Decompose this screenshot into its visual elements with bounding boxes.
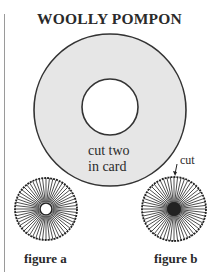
cut-label: cut bbox=[180, 153, 195, 168]
figure-b-pompon bbox=[142, 177, 206, 241]
pompon-diagram bbox=[0, 0, 219, 277]
figure-a-label: figure a bbox=[24, 251, 67, 267]
figure-b-label: figure b bbox=[154, 251, 197, 267]
card-label-line2: in card bbox=[88, 159, 126, 175]
figure-a-pompon bbox=[15, 178, 77, 240]
card-label-line1: cut two bbox=[88, 143, 130, 159]
